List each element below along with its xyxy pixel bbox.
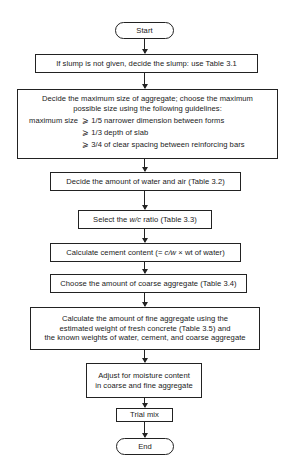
step-text: Decide the amount of water and air (Tabl… <box>66 177 224 187</box>
text-prefix: Calculate cement content (= <box>66 248 164 257</box>
step-text: estimated weight of fresh concrete (Tabl… <box>60 324 231 334</box>
step-water-air: Decide the amount of water and air (Tabl… <box>50 172 241 191</box>
text-suffix: ratio (Table 3.3) <box>141 215 197 224</box>
step-moisture-adjust: Adjust for moisture content in coarse an… <box>86 363 202 398</box>
guideline-item: ⩾ 3/4 of clear spacing between reinforci… <box>82 140 245 150</box>
step-text: Choose the amount of coarse aggregate (T… <box>60 279 236 289</box>
step-text: possible size using the following guidel… <box>73 104 222 114</box>
end-label: End <box>138 442 152 452</box>
step-text: the known weights of water, cement, and … <box>44 333 245 343</box>
text-suffix: × wt of water) <box>176 248 225 257</box>
arrow-step7-to-step8 <box>144 350 145 362</box>
arrow-step8-to-step9 <box>144 398 145 407</box>
step-fine-aggregate: Calculate the amount of fine aggregate u… <box>30 307 260 350</box>
guideline-item: ⩾ 1/3 depth of slab <box>82 128 148 138</box>
arrow-step5-to-step6 <box>144 262 145 273</box>
arrow-step6-to-step7 <box>144 293 145 306</box>
guideline-item: ⩾ 1/5 narrower dimension between forms <box>82 116 224 126</box>
step-trial-mix: Trial mix <box>116 408 173 422</box>
step-wc-ratio: Select the w/c ratio (Table 3.3) <box>78 210 212 229</box>
end-terminal: End <box>116 438 174 455</box>
arrow-start-to-step1 <box>144 39 145 53</box>
arrow-step9-to-end <box>144 422 145 437</box>
step-text: Adjust for moisture content <box>98 371 190 381</box>
text-prefix: Select the <box>93 215 129 224</box>
step-text: Decide the maximum size of aggregate; ch… <box>42 94 253 104</box>
arrow-step4-to-step5 <box>144 229 145 242</box>
step-text: Trial mix <box>130 410 159 420</box>
start-terminal: Start <box>115 22 174 39</box>
step-text: Calculate the amount of fine aggregate u… <box>62 314 228 324</box>
arrow-step2-to-step3 <box>144 159 145 171</box>
step-text: in coarse and fine aggregate <box>95 381 193 391</box>
step-text: Calculate cement content (= c/w × wt of … <box>66 248 224 258</box>
step-text: If slump is not given, decide the slump:… <box>56 59 237 69</box>
text-italic: w/c <box>130 215 142 224</box>
guideline-label: maximum size <box>29 116 78 126</box>
arrow-step1-to-step2 <box>144 73 145 88</box>
text-italic: c/w <box>165 248 177 257</box>
step-text: Select the w/c ratio (Table 3.3) <box>93 215 197 225</box>
step-coarse-aggregate: Choose the amount of coarse aggregate (T… <box>50 274 247 293</box>
step-decide-slump: If slump is not given, decide the slump:… <box>35 54 258 73</box>
step-cement-content: Calculate cement content (= c/w × wt of … <box>50 243 241 262</box>
start-label: Start <box>136 26 152 36</box>
step-max-aggregate-size: Decide the maximum size of aggregate; ch… <box>17 89 278 159</box>
arrow-step3-to-step4 <box>144 191 145 209</box>
